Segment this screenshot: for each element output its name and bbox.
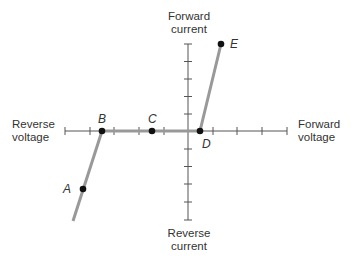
forward-current-label-line1: Forward [164, 10, 214, 23]
reverse-voltage-label-line2: voltage [12, 131, 58, 144]
point-b-marker [99, 128, 106, 135]
point-d-label: D [202, 137, 211, 151]
forward-current-label-line2: current [164, 23, 214, 36]
point-d-marker [197, 128, 204, 135]
point-c-marker [149, 128, 156, 135]
point-c-label: C [148, 112, 157, 126]
reverse-current-label: Reverse current [164, 227, 214, 253]
point-a-marker [80, 186, 87, 193]
forward-voltage-label-line1: Forward [298, 118, 348, 131]
reverse-current-label-line1: Reverse [164, 227, 214, 240]
reverse-voltage-label-line1: Reverse [12, 118, 58, 131]
forward-voltage-label: Forward voltage [298, 118, 348, 144]
point-b-label: B [98, 112, 106, 126]
forward-voltage-label-line2: voltage [298, 131, 348, 144]
point-e-marker [218, 41, 225, 48]
reverse-current-label-line2: current [164, 240, 214, 253]
point-e-label: E [230, 37, 238, 51]
reverse-voltage-label: Reverse voltage [12, 118, 58, 144]
forward-current-label: Forward current [164, 10, 214, 36]
point-a-label: A [63, 182, 71, 196]
